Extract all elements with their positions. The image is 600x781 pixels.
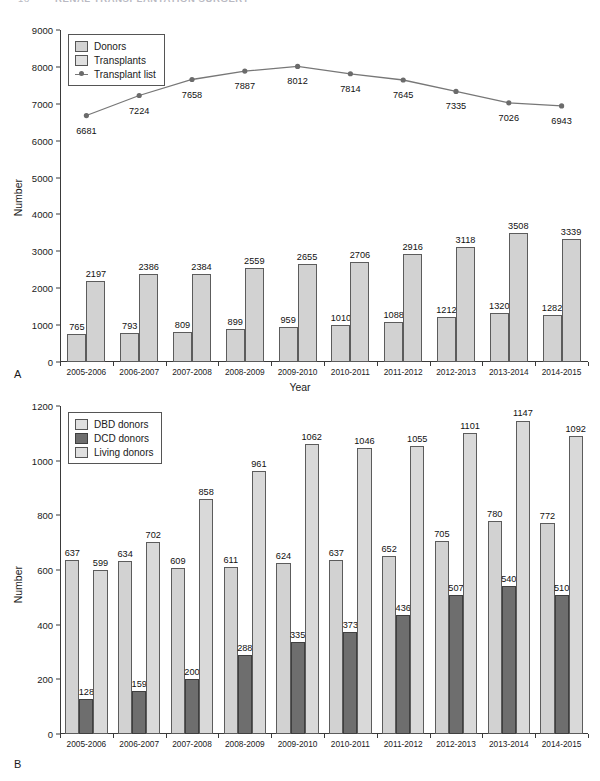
x-tick-mark <box>588 362 589 366</box>
bar-dbd-donors <box>171 568 185 734</box>
legend-item-donors: Donors <box>75 39 156 53</box>
x-tick-label: 2007-2008 <box>172 367 212 377</box>
bar-dcd-donors <box>396 615 410 734</box>
bar-value-label: 705 <box>434 529 449 539</box>
bar-value-label: 507 <box>448 583 463 593</box>
y-tick-mark <box>56 515 60 516</box>
bar-dbd-donors <box>382 556 396 734</box>
panel-a-legend: Donors Transplants Transplant list <box>68 34 165 86</box>
panel-a: Number 010002000300040005000600070008000… <box>0 10 600 395</box>
panel-a-plot-area: 0100020003000400050006000700080009000 20… <box>60 30 588 362</box>
line-value-label: 7814 <box>340 84 360 94</box>
bar-dcd-donors <box>185 679 199 734</box>
dbd-donors-swatch-icon <box>75 419 88 430</box>
x-tick-mark <box>60 362 61 366</box>
bar-dcd-donors <box>238 655 252 734</box>
line-value-label: 7645 <box>393 90 413 100</box>
x-tick-mark <box>218 734 219 738</box>
bar-value-label: 1046 <box>354 436 374 446</box>
bar-value-label: 510 <box>554 583 569 593</box>
x-tick-mark <box>377 362 378 366</box>
line-marker-icon <box>75 70 88 79</box>
x-tick-label: 2013-2014 <box>489 739 529 749</box>
bar-value-label: 540 <box>501 574 516 584</box>
figure-container: Number 010002000300040005000600070008000… <box>0 0 600 781</box>
x-tick-mark <box>482 734 483 738</box>
bar-dbd-donors <box>488 521 502 734</box>
line-value-label: 6681 <box>76 126 96 136</box>
bar-living-donors <box>199 499 213 734</box>
bar-living-donors <box>516 421 530 735</box>
bar-living-donors <box>146 542 160 734</box>
x-tick-label: 2010-2011 <box>331 367 370 377</box>
x-tick-mark <box>60 734 61 738</box>
bar-dcd-donors <box>132 691 146 734</box>
bar-value-label: 159 <box>132 679 147 689</box>
x-tick-mark <box>166 734 167 738</box>
x-tick-label: 2011-2012 <box>384 739 423 749</box>
x-tick-label: 2008-2009 <box>225 739 265 749</box>
x-tick-mark <box>113 734 114 738</box>
legend-item-transplants: Transplants <box>75 53 156 67</box>
bar-value-label: 634 <box>117 549 132 559</box>
bar-value-label: 637 <box>329 548 344 558</box>
x-tick-label: 2014-2015 <box>542 739 582 749</box>
bar-value-label: 128 <box>79 687 94 697</box>
bar-value-label: 1101 <box>460 421 480 431</box>
bar-dbd-donors <box>118 561 132 734</box>
bar-value-label: 373 <box>343 620 358 630</box>
panel-b-y-axis <box>60 406 61 734</box>
bar-value-label: 652 <box>381 544 396 554</box>
bar-value-label: 288 <box>237 643 252 653</box>
y-tick-mark <box>56 679 60 680</box>
panel-b: Number 020040060080010001200 2005-200620… <box>0 398 600 781</box>
bar-value-label: 1092 <box>565 424 585 434</box>
bar-dbd-donors <box>329 560 343 734</box>
y-tick-mark <box>56 406 60 407</box>
bar-dcd-donors <box>291 642 305 734</box>
dcd-donors-swatch-icon <box>75 433 88 444</box>
legend-label-donors: Donors <box>94 41 126 52</box>
x-tick-label: 2005-2006 <box>67 739 107 749</box>
x-tick-mark <box>430 362 431 366</box>
legend-item-living-donors: Living donors <box>75 445 153 459</box>
bar-value-label: 702 <box>146 530 161 540</box>
x-tick-label: 2012-2013 <box>436 739 476 749</box>
x-tick-label: 2010-2011 <box>331 739 370 749</box>
x-tick-mark <box>271 362 272 366</box>
bar-dcd-donors <box>502 586 516 734</box>
x-tick-label: 2007-2008 <box>172 739 212 749</box>
panel-b-plot-area: 020040060080010001200 2005-20062006-2007… <box>60 406 588 734</box>
bar-value-label: 609 <box>170 556 185 566</box>
bar-value-label: 335 <box>290 630 305 640</box>
line-value-label: 7658 <box>182 90 202 100</box>
legend-label-dcd-donors: DCD donors <box>94 433 149 444</box>
bar-value-label: 637 <box>65 548 80 558</box>
legend-label-living-donors: Living donors <box>94 447 153 458</box>
x-tick-mark <box>271 734 272 738</box>
bar-value-label: 858 <box>198 487 213 497</box>
bar-living-donors <box>357 448 371 734</box>
bar-living-donors <box>569 436 583 734</box>
bar-value-label: 1055 <box>407 434 427 444</box>
y-tick-mark <box>56 570 60 571</box>
bar-value-label: 611 <box>223 555 238 565</box>
legend-label-transplant-list: Transplant list <box>94 69 156 80</box>
bar-value-label: 624 <box>276 551 291 561</box>
panel-b-y-axis-label: Number <box>12 566 24 603</box>
legend-label-dbd-donors: DBD donors <box>94 419 148 430</box>
bar-dbd-donors <box>65 560 79 734</box>
bar-dcd-donors <box>555 595 569 734</box>
bar-living-donors <box>305 444 319 734</box>
bar-value-label: 1062 <box>301 432 321 442</box>
bar-living-donors <box>252 471 266 734</box>
line-value-label: 6943 <box>551 116 571 126</box>
bar-value-label: 1147 <box>513 408 533 418</box>
x-tick-label: 2013-2014 <box>489 367 529 377</box>
bar-dcd-donors <box>449 595 463 734</box>
y-tick-mark <box>56 624 60 625</box>
x-tick-mark <box>482 362 483 366</box>
bar-value-label: 780 <box>487 509 502 519</box>
bar-dcd-donors <box>79 699 93 734</box>
bar-dbd-donors <box>276 563 290 734</box>
